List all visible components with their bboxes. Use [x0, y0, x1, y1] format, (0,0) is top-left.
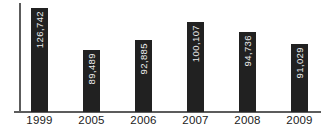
bar-value-label: 94,736 — [243, 35, 253, 66]
bar-chart: 126,742199989,489200592,8852006100,10720… — [0, 0, 327, 136]
bar-2007: 100,107 — [187, 22, 204, 112]
bar-value-label: 100,107 — [191, 25, 201, 62]
bar-value-label: 89,489 — [87, 53, 97, 84]
bar-value-label: 92,885 — [139, 43, 149, 74]
x-tick-label-2007: 2007 — [182, 114, 208, 126]
x-tick-label-2009: 2009 — [286, 114, 312, 126]
x-axis-line — [14, 111, 321, 113]
bar-2006: 92,885 — [135, 40, 152, 112]
x-tick-label-2008: 2008 — [234, 114, 260, 126]
y-axis-line — [19, 3, 21, 112]
bar-2005: 89,489 — [83, 50, 100, 112]
bar-1999: 126,742 — [31, 8, 48, 112]
bar-2009: 91,029 — [291, 44, 308, 112]
x-tick-label-2006: 2006 — [130, 114, 156, 126]
bar-2008: 94,736 — [239, 32, 256, 112]
bar-value-label: 91,029 — [295, 47, 305, 78]
x-tick-label-2005: 2005 — [78, 114, 104, 126]
bar-value-label: 126,742 — [35, 11, 45, 48]
x-tick-label-1999: 1999 — [26, 114, 52, 126]
